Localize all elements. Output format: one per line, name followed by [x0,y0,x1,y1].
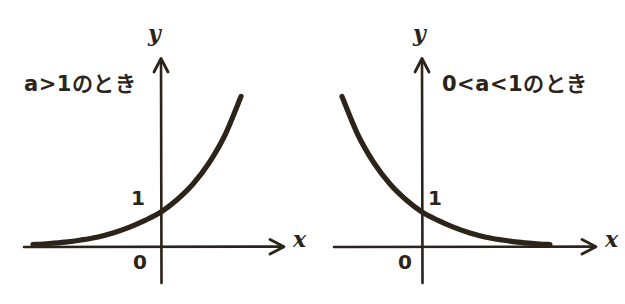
exponential-function-figure: a>1のとき y x 1 0 0<a<1のとき y x 1 0 [0,0,625,304]
y-axis-line [161,60,162,283]
panel-caption-decreasing: 0<a<1のとき [442,74,588,95]
chart-panel-decreasing: 0<a<1のとき y x 1 0 [312,0,625,304]
origin-label-increasing: 0 [133,252,147,272]
x-axis-label-increasing: x [293,228,306,250]
exponential-decreasing-curve [342,97,550,245]
exponential-increasing-curve [33,97,241,245]
origin-label-decreasing: 0 [398,252,412,272]
y-intercept-tick-label-decreasing: 1 [428,188,442,208]
chart-panel-increasing: a>1のとき y x 1 0 [0,0,312,304]
y-axis-label-increasing: y [148,22,161,44]
y-axis-label-decreasing: y [413,22,426,44]
x-axis-label-decreasing: x [605,228,618,250]
panel-caption-increasing: a>1のとき [24,74,136,95]
y-intercept-tick-label-increasing: 1 [131,188,145,208]
y-axis-line [422,60,423,283]
chart-svg-decreasing [312,0,625,304]
